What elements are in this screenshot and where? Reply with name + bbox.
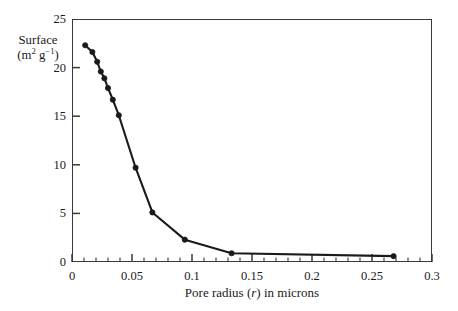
data-point [229,251,234,256]
y-tick-label: 15 [26,110,66,123]
chart-page: Surface (m2 g−1) Pore radius (r) in micr… [0,0,458,311]
data-point [98,69,103,74]
y-tick-label: 0 [26,256,66,269]
data-point [391,254,396,259]
data-point [90,49,95,54]
x-tick-label: 0.1 [166,270,218,283]
data-point [150,210,155,215]
x-tick-label: 0.3 [406,270,458,283]
data-point [83,43,88,48]
data-line [85,45,393,256]
data-point [102,76,107,81]
y-tick-label: 20 [26,62,66,75]
x-tick-label: 0.05 [106,270,158,283]
data-point [116,113,121,118]
x-tick-label: 0.25 [346,270,398,283]
x-tick-label: 0.15 [226,270,278,283]
y-tick-label: 5 [26,207,66,220]
y-units-close: ) [55,48,59,62]
data-point [95,59,100,64]
data-point [105,85,110,90]
y-units-base: (m [17,48,31,62]
y-units-exp-mass: −1 [45,46,54,56]
x-tick-label: 0 [46,270,98,283]
y-axis-ticks [72,68,80,214]
x-axis-label: Pore radius (r) in microns [72,285,432,301]
y-units-mid: g [36,48,46,62]
y-tick-label: 25 [26,13,66,26]
data-point [133,165,138,170]
data-point [110,97,115,102]
x-tick-label: 0.2 [286,270,338,283]
x-axis-label-symbol: r [251,285,256,300]
data-point [182,237,187,242]
y-axis-label-line1: Surface [6,33,70,48]
y-tick-label: 10 [26,159,66,172]
y-axis-label: Surface (m2 g−1) [6,33,70,63]
